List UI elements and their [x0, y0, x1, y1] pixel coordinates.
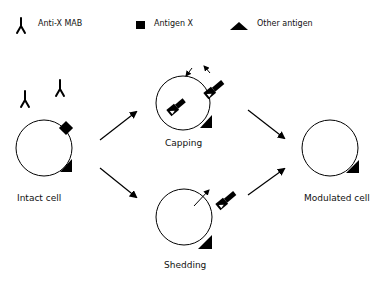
- intact-cell: [16, 120, 73, 176]
- legend-label-antibody: Anti-X MAB: [38, 19, 82, 29]
- label-shedding: Shedding: [164, 260, 206, 271]
- other-antigen-icon: [346, 160, 359, 173]
- label-capping: Capping: [165, 138, 202, 149]
- antibody-antigen-complex-icon: [166, 97, 186, 116]
- legend-label-antigen-x: Antigen X: [154, 19, 193, 29]
- antibody-antigen-complex-icon: [215, 190, 237, 210]
- antigen-x-icon: [59, 121, 73, 135]
- arrow-capping-to-modulated: [248, 110, 284, 138]
- arrow-shedding-to-modulated: [248, 169, 284, 195]
- legend-triangle-icon: [230, 22, 248, 30]
- arrow-shed-icon: [194, 190, 209, 206]
- legend-antibody-icon: [17, 18, 25, 33]
- other-antigen-icon: [60, 159, 72, 172]
- arrow-outward-icon: [204, 66, 210, 73]
- shedding-cell: [156, 189, 237, 249]
- antibody-icon: [56, 80, 64, 96]
- arrow-inward-icon: [186, 68, 192, 76]
- label-modulated-cell: Modulated cell: [304, 193, 370, 204]
- modulated-cell: [302, 120, 359, 176]
- legend-label-other-antigen: Other antigen: [257, 19, 313, 29]
- antibody-icon: [21, 91, 29, 107]
- capping-cell: [156, 66, 225, 130]
- other-antigen-icon: [198, 235, 212, 249]
- arrow-to-shedding: [100, 168, 136, 197]
- label-intact-cell: Intact cell: [17, 193, 61, 204]
- legend-square-icon: [136, 21, 145, 29]
- arrow-to-capping: [100, 112, 136, 140]
